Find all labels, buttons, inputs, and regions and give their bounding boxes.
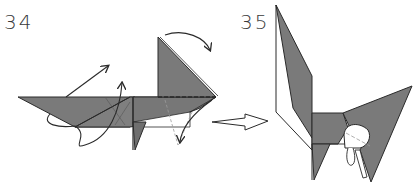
step-35-model [276, 5, 412, 182]
fold-over-arrow [165, 33, 210, 50]
fold-up-arrow-1 [66, 66, 108, 97]
hollow-right-arrow-icon [212, 114, 268, 130]
step-34-model [18, 37, 218, 150]
origami-diagram [0, 0, 417, 189]
